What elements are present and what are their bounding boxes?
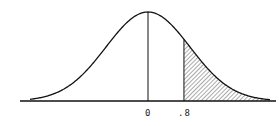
shaded-tail-region (184, 39, 270, 101)
cutoff-label: .8 (178, 108, 191, 118)
normal-curve-diagram (0, 0, 279, 126)
bell-curve (30, 12, 270, 100)
mean-label: 0 (145, 108, 151, 118)
